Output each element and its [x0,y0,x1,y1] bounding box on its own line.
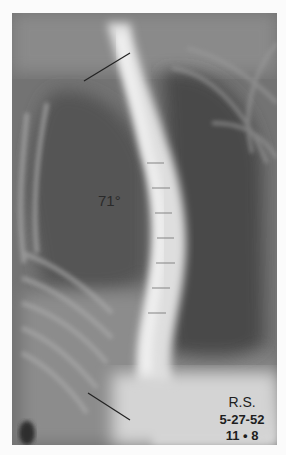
patient-initials: R.S. [212,395,272,409]
xray-image [12,13,277,445]
patient-age: 11 • 8 [206,429,278,442]
xray-graphic [12,13,277,445]
exam-date: 5-27-52 [206,413,278,426]
cobb-angle-label: 71° [98,193,121,208]
